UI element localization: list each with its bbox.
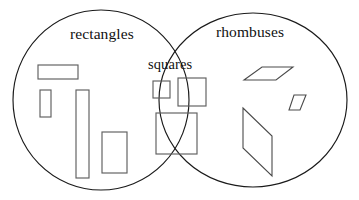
set-label-rectangles: rectangles xyxy=(70,26,134,42)
shape-medium-square xyxy=(178,78,206,106)
shape-large-rhombus xyxy=(243,108,272,176)
set-label-squares: squares xyxy=(148,57,192,72)
shape-small-square xyxy=(153,81,170,98)
shape-small-vertical-rectangle xyxy=(40,90,51,117)
venn-diagram-canvas xyxy=(0,0,359,200)
set-label-rhombuses: rhombuses xyxy=(216,24,284,40)
shape-flat-rhombus xyxy=(244,67,293,80)
shape-tall-narrow-rectangle xyxy=(76,90,89,178)
shape-large-square xyxy=(156,113,197,154)
shape-small-rhombus xyxy=(289,95,306,110)
shape-medium-vertical-rectangle xyxy=(102,132,127,173)
shape-wide-rectangle xyxy=(38,65,78,79)
venn-diagram: rectangles rhombuses squares xyxy=(0,0,359,200)
